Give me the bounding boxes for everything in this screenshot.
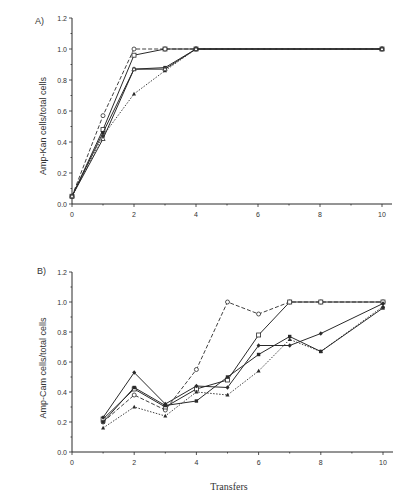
panel-b-x-axis-title: Transfers [210,481,248,492]
y-tick-label: 0.0 [57,449,67,456]
data-point-open-square [288,300,292,304]
series-line [72,49,382,196]
x-tick-label: 10 [379,459,387,466]
x-tick-label: 2 [132,459,136,466]
data-point-filled-diamond [319,331,323,336]
data-point-filled-square [164,404,167,407]
data-point-open-circle [163,47,167,51]
y-tick-label: 0.6 [57,108,67,115]
data-point-open-circle [101,114,105,118]
y-tick-label: 0.2 [57,170,67,177]
data-point-filled-square [226,375,229,378]
y-tick-label: 1.2 [57,269,67,276]
panel-a-chart: A) Amp-Kan cells/total cells 0.00.20.40.… [35,15,392,219]
series-line [72,49,382,196]
x-tick-label: 8 [318,211,322,218]
series-filled-diamond [101,301,385,420]
x-tick-label: 0 [70,211,74,218]
series-filled-triangle [70,47,384,198]
series-open-triangle [70,47,384,198]
y-tick-label: 1.2 [57,15,67,22]
series-open-square [70,47,384,198]
x-tick-label: 4 [194,211,198,218]
data-point-filled-triangle [101,426,105,430]
x-tick-label: 0 [70,459,74,466]
data-point-filled-square [101,420,104,423]
data-point-filled-square [133,386,136,389]
data-point-open-triangle [132,67,136,71]
y-tick-label: 0.2 [57,419,67,426]
data-point-filled-triangle [132,92,136,96]
series-line [103,308,383,422]
data-point-open-circle [226,300,230,304]
figure: A) Amp-Kan cells/total cells 0.00.20.40.… [0,0,411,496]
series-line [72,49,382,196]
y-tick-label: 0.0 [57,201,67,208]
series-line [103,304,383,418]
data-point-open-square [132,53,136,57]
data-point-filled-triangle [381,304,385,308]
panel-b-y-axis-title: Amp-Cam cells/total cells [38,317,48,419]
y-tick-label: 1.0 [57,46,67,53]
data-point-open-circle [194,368,198,372]
data-point-open-circle [132,47,136,51]
data-point-filled-diamond [288,343,292,348]
series-filled-square [70,47,383,198]
panel-a-y-axis-title: Amp-Kan cells/total cells [38,76,48,175]
y-tick-label: 0.4 [57,139,67,146]
data-point-open-circle [132,393,136,397]
x-tick-label: 6 [257,459,261,466]
x-tick-label: 4 [194,459,198,466]
x-tick-label: 8 [319,459,323,466]
data-point-filled-triangle [132,405,136,409]
series-line [72,49,382,196]
y-tick-label: 1.0 [57,299,67,306]
series-line [103,302,383,422]
panel-a-label: A) [35,16,44,26]
series-open-square [101,300,385,421]
series-open-circle [70,47,384,198]
panel-b-chart: B) Amp-Cam cells/total cells Transfers 0… [37,266,393,492]
panel-b-label: B) [37,266,46,276]
data-point-filled-square [195,399,198,402]
series-line [103,302,383,419]
y-tick-label: 0.8 [57,77,67,84]
data-point-open-square [319,300,323,304]
x-tick-label: 10 [378,211,386,218]
x-tick-label: 6 [256,211,260,218]
data-point-open-circle [257,312,261,316]
data-point-open-square [257,333,261,337]
y-tick-label: 0.6 [57,359,67,366]
series-line [72,49,382,196]
series-open-circle [101,300,385,424]
x-tick-label: 2 [132,211,136,218]
series-filled-square [101,306,384,423]
data-point-filled-triangle [257,369,261,373]
data-point-filled-square [257,353,260,356]
y-tick-label: 0.8 [57,329,67,336]
y-tick-label: 0.4 [57,389,67,396]
